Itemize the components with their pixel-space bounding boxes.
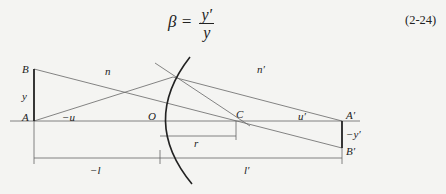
label-l-prime: l′: [244, 164, 250, 176]
ray-refracted-to-a-prime: [173, 77, 342, 121]
label-neg-y-prime: −y′: [346, 128, 361, 140]
label-c: C: [236, 108, 244, 120]
label-b: B: [22, 63, 29, 75]
label-u: −u: [62, 111, 75, 123]
label-r: r: [194, 137, 199, 149]
label-a: A: [21, 111, 29, 123]
label-o: O: [148, 110, 156, 122]
label-u-prime: u′: [298, 110, 307, 122]
label-b-prime: B′: [346, 145, 356, 157]
label-n: n: [105, 65, 111, 77]
label-a-prime: A′: [345, 109, 356, 121]
label-y: y: [21, 90, 27, 102]
label-neg-l: −l: [90, 164, 100, 176]
refraction-diagram: B y A −u n O C n′ u′ A′ −y′ B′ r −l l′: [0, 0, 446, 194]
label-n-prime: n′: [257, 63, 266, 75]
spherical-surface: [165, 57, 192, 184]
